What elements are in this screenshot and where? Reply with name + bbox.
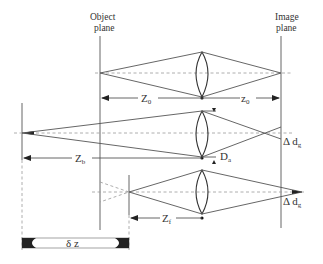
ray-upper-3 xyxy=(129,170,302,192)
object-plane-label-line1: Object xyxy=(90,12,116,22)
zi-label: z0 xyxy=(241,92,250,106)
da-label: Da xyxy=(220,150,232,164)
object-plane-label-line2: plane xyxy=(94,23,115,33)
image-plane-label-line2: plane xyxy=(276,23,297,33)
zb-label: Zb xyxy=(75,152,86,166)
row-back-focus: Zb Da Δ dg xyxy=(14,103,302,250)
delta-dg-lower-label: Δ dg xyxy=(283,195,302,209)
row-in-focus: Z0 z0 xyxy=(95,52,292,106)
ray-upper-2 xyxy=(22,111,281,139)
zf-label: Zf xyxy=(162,212,172,226)
image-plane-label-line1: Image xyxy=(275,12,299,22)
ray-upper-1 xyxy=(100,52,281,73)
ray-lower-1 xyxy=(100,73,281,97)
da-arrow-bottom xyxy=(212,160,216,164)
lens-2 xyxy=(196,111,208,157)
z0-label: Z0 xyxy=(141,92,152,106)
delta-dg-upper-label: Δ dg xyxy=(283,135,302,149)
delta-z-range: δ z xyxy=(22,237,129,249)
ray-lower-3 xyxy=(129,192,302,214)
ray-lower-2 xyxy=(22,127,281,157)
delta-z-label: δ z xyxy=(66,237,79,249)
optics-defocus-diagram: Object plane Image plane Z0 z0 Zb xyxy=(0,0,323,264)
lens-1 xyxy=(196,52,208,97)
